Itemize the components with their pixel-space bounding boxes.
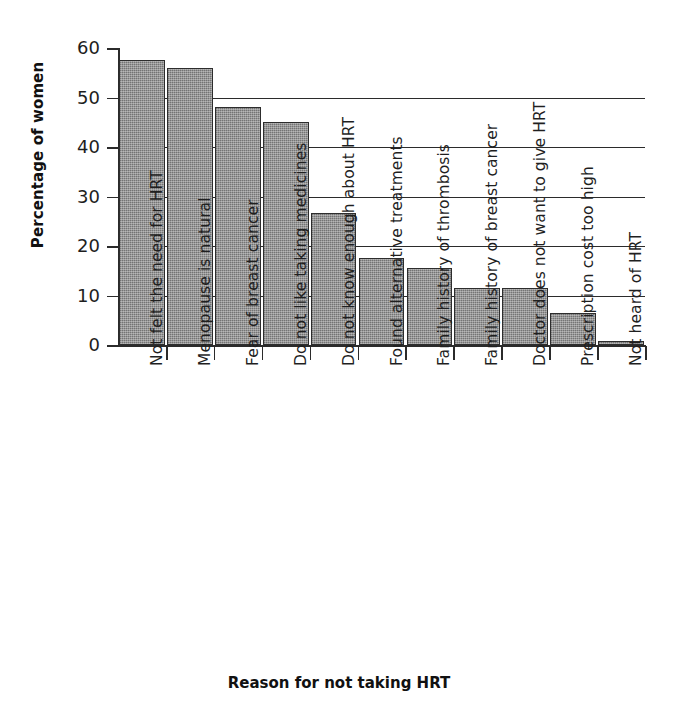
bar <box>550 313 596 345</box>
y-axis-tick-label: 50 <box>56 87 100 108</box>
y-axis-title: Percentage of women <box>29 55 47 255</box>
x-axis-line <box>118 345 646 347</box>
bar <box>311 213 357 345</box>
x-axis-title: Reason for not taking HRT <box>0 674 678 692</box>
x-axis-tick <box>310 346 312 360</box>
bar <box>407 268 453 345</box>
bar <box>454 288 500 345</box>
x-axis-tick <box>166 346 168 360</box>
y-axis-tick-label: 0 <box>56 334 100 355</box>
y-axis-tick <box>107 48 118 50</box>
plot-area <box>118 48 645 345</box>
bar <box>167 68 213 345</box>
y-axis-tick-label: 10 <box>56 285 100 306</box>
x-axis-tick <box>597 346 599 360</box>
y-axis-tick <box>107 296 118 298</box>
x-axis-tick <box>262 346 264 360</box>
y-axis-tick-label: 60 <box>56 37 100 58</box>
y-axis-tick <box>107 246 118 248</box>
bar <box>598 341 644 345</box>
y-axis-tick-label: 40 <box>56 136 100 157</box>
y-axis-tick <box>107 98 118 100</box>
x-axis-tick <box>549 346 551 360</box>
bar <box>119 60 165 345</box>
bar <box>359 258 405 345</box>
x-axis-tick <box>645 346 647 360</box>
bar-chart: Percentage of women 0102030405060 Not fe… <box>0 0 678 716</box>
y-axis-tick <box>107 197 118 199</box>
y-axis-tick-label: 30 <box>56 186 100 207</box>
x-axis-tick <box>405 346 407 360</box>
x-axis-tick <box>453 346 455 360</box>
x-axis-tick <box>214 346 216 360</box>
x-axis-tick <box>358 346 360 360</box>
bar <box>215 107 261 345</box>
bar <box>502 288 548 345</box>
bar <box>263 122 309 345</box>
x-axis-tick <box>501 346 503 360</box>
y-axis-tick <box>107 345 118 347</box>
y-axis-tick-label: 20 <box>56 235 100 256</box>
y-axis-tick <box>107 147 118 149</box>
